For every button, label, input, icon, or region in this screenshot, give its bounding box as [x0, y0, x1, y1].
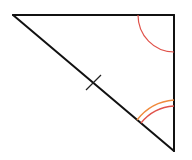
triangle-diagram [0, 0, 192, 160]
bottom-angle-arc-inner [141, 106, 174, 123]
bottom-angle-arc-outer [137, 100, 174, 120]
top-right-angle-arc [138, 15, 174, 52]
bottom-angle-arcs [137, 100, 174, 123]
